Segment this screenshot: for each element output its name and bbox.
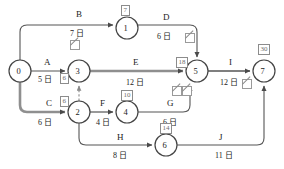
node-label-4: 4 [124, 108, 128, 117]
network-diagram-canvas: 0 1 3 2 4 5 6 7 B A C D E F G H I J 7 日 … [0, 0, 284, 169]
time-box-node-3: 6 [60, 73, 69, 84]
duration-label-A: 5 日 [38, 76, 52, 84]
activity-label-E: E [133, 58, 139, 67]
activity-label-F: F [100, 99, 105, 108]
duration-label-E: 12 日 [126, 79, 144, 87]
slack-mark-B [70, 40, 80, 50]
time-box-node-5: 18 [176, 57, 188, 68]
duration-label-D: 6 日 [157, 33, 171, 41]
node-label-5: 5 [194, 67, 198, 76]
edge-C [20, 82, 65, 112]
time-box-node-1: 7 [121, 5, 130, 16]
activity-label-H: H [117, 133, 124, 142]
node-label-1: 1 [124, 24, 128, 33]
slack-mark-D [185, 33, 195, 43]
activity-label-I: I [229, 58, 232, 67]
slack-mark-G [182, 86, 192, 96]
time-box-node-4: 10 [121, 90, 133, 101]
time-box-node-6: 14 [160, 123, 172, 134]
node-label-3: 3 [76, 67, 80, 76]
time-box-node-2: 6 [60, 96, 69, 107]
time-box-node-7: 30 [258, 44, 270, 55]
node-label-2: 2 [76, 108, 80, 117]
duration-label-F: 4 日 [96, 119, 110, 127]
duration-label-I: 12 日 [220, 79, 238, 87]
activity-label-D: D [163, 13, 170, 22]
activity-label-C: C [46, 99, 52, 108]
slack-mark-J [242, 79, 252, 89]
duration-label-C: 6 日 [38, 119, 52, 127]
activity-label-G: G [167, 99, 174, 108]
activity-label-A: A [44, 58, 51, 67]
duration-label-H: 8 日 [113, 152, 127, 160]
slack-mark-G-alt [172, 86, 182, 96]
edge-B [20, 25, 113, 60]
node-label-0: 0 [17, 67, 21, 76]
edge-H [79, 123, 152, 145]
activity-label-J: J [219, 133, 223, 142]
activity-label-B: B [76, 10, 82, 19]
node-label-6: 6 [163, 141, 167, 150]
node-label-7: 7 [261, 67, 265, 76]
duration-label-J: 11 日 [215, 152, 233, 160]
